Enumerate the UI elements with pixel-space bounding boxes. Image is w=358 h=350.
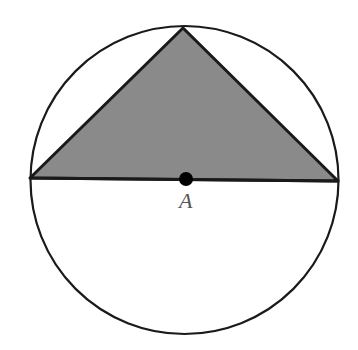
label-a: A xyxy=(179,188,192,214)
diagram-canvas: A xyxy=(0,0,358,350)
shaded-triangle xyxy=(30,28,338,181)
center-point-a xyxy=(179,172,193,186)
geometry-figure xyxy=(0,0,358,350)
